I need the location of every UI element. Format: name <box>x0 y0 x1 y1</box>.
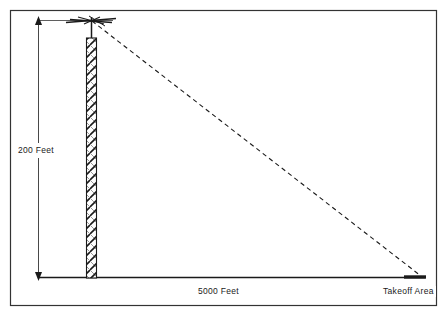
height-dimension-label: 200 Feet <box>16 145 56 156</box>
diagram-canvas: 200 Feet 5000 Feet Takeoff Area <box>0 0 447 316</box>
border-frame <box>11 11 437 306</box>
dimension-arrow-bottom <box>35 272 42 281</box>
span-dimension-label: 5000 Feet <box>196 286 241 297</box>
diagram-svg <box>0 0 447 316</box>
sight-line-dashed <box>92 21 421 276</box>
lattice-tower-body <box>87 38 97 278</box>
takeoff-area-label: Takeoff Area <box>381 286 436 297</box>
